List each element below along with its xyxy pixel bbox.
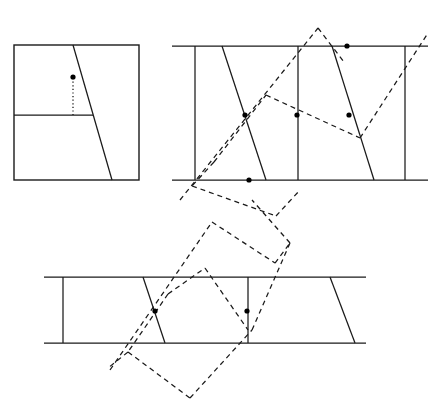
figure-canvas bbox=[0, 0, 431, 413]
figure-background bbox=[0, 0, 431, 413]
intersection-middle bbox=[244, 308, 249, 313]
intersection-left bbox=[242, 112, 247, 117]
intersection-top bbox=[344, 43, 349, 48]
intersection-middle bbox=[294, 112, 299, 117]
geometry-figure bbox=[0, 0, 431, 413]
intersection-left bbox=[152, 308, 157, 313]
intersection-right bbox=[346, 112, 351, 117]
intersection-bottom bbox=[246, 177, 251, 182]
marked-point bbox=[70, 74, 75, 79]
